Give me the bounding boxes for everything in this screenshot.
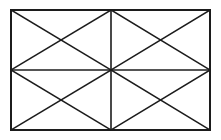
grid-diagonals-figure [0,0,221,140]
figure-container [0,0,221,140]
